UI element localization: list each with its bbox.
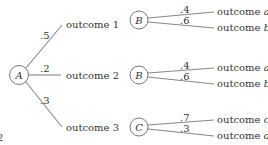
- prob-label: .6: [180, 71, 190, 82]
- prob-label: .7: [180, 112, 190, 123]
- subtree-b-2: B .4 .6 outcome a outcome b: [130, 60, 268, 89]
- outcome-label: outcome 3: [66, 122, 119, 133]
- prob-label: .4: [180, 60, 190, 71]
- outcome-label: outcome c: [217, 114, 268, 125]
- prob-label: .4: [180, 4, 190, 15]
- outcome-label: outcome 1: [66, 19, 119, 30]
- outcome-label: outcome b: [217, 22, 268, 33]
- margin-mark: 2: [0, 132, 3, 143]
- subtree-b-1: B .4 .6 outcome a outcome b: [130, 4, 268, 33]
- outcome-label: outcome 2: [66, 70, 119, 81]
- node-c-label: C: [135, 122, 143, 133]
- node-b-label: B: [134, 70, 142, 81]
- outcome-label: outcome d: [217, 130, 268, 141]
- outcome-label: outcome a: [217, 6, 268, 17]
- prob-label: .3: [180, 123, 190, 134]
- outcome-label: outcome b: [217, 78, 268, 89]
- probability-tree-diagram: A .5 .2 .3 outcome 1 outcome 2 outcome 3…: [0, 0, 268, 145]
- node-b-label: B: [134, 15, 142, 26]
- prob-label: .2: [40, 63, 50, 74]
- outcome-label: outcome a: [217, 62, 268, 73]
- subtree-c: C .7 .3 outcome c outcome d: [130, 112, 268, 141]
- prob-label: .5: [40, 30, 50, 41]
- prob-label: .6: [180, 15, 190, 26]
- node-a-label: A: [14, 70, 22, 81]
- prob-label: .3: [40, 95, 50, 106]
